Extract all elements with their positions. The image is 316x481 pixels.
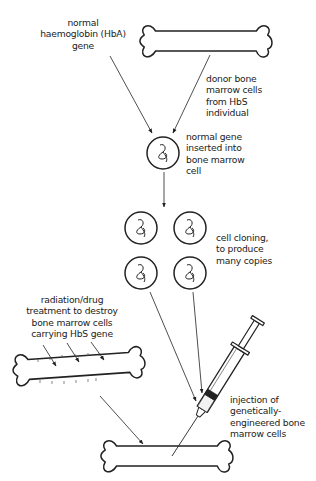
label-donor-cells: donor bone marrow cells from HbS individ…	[206, 73, 262, 118]
cloned-cell	[125, 257, 157, 289]
arrow-clone-to-syringe	[193, 292, 202, 393]
donor-bone	[140, 26, 272, 57]
arrow-gene-to-cell	[110, 56, 152, 133]
label-radiation: radiation/drug treatment to destroy bone…	[14, 294, 130, 339]
label-cloning: cell cloning, to produce many copies	[216, 232, 272, 266]
engineered-cell	[147, 137, 179, 169]
cloned-cell	[125, 212, 157, 244]
arrow-donor-to-cell	[173, 55, 210, 133]
cloned-cell	[174, 257, 206, 289]
label-normal-gene: normal haemoglobin (HbA) gene	[28, 17, 138, 51]
recipient-bone	[101, 441, 233, 472]
label-insertion: normal gene inserted into bone marrow ce…	[186, 131, 245, 176]
gene-therapy-diagram: normal haemoglobin (HbA) gene donor bone…	[0, 0, 316, 481]
arrow-treated-to-recipient	[100, 396, 143, 444]
treated-bone	[12, 346, 146, 386]
arrow-clone-to-syringe	[150, 292, 196, 401]
label-injection: injection of genetically- engineered bon…	[230, 394, 305, 439]
cloned-cell	[174, 212, 206, 244]
